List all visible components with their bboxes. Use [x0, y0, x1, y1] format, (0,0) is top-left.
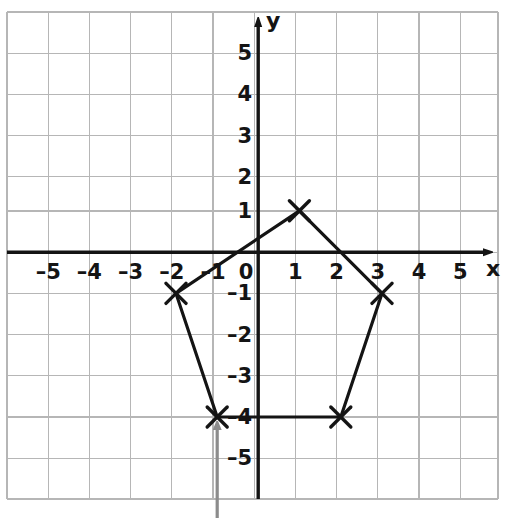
y-tick-label-2: 2: [237, 166, 252, 187]
y-tick-label--5: –5: [227, 448, 252, 469]
grid-lines: [7, 12, 498, 499]
pentagon-polygon: [176, 211, 382, 417]
y-tick-label-3: 3: [237, 125, 252, 146]
x-axis-label: x: [486, 258, 500, 280]
pentagon-outline: [176, 211, 382, 417]
x-tick-label--3: –3: [118, 262, 143, 283]
y-tick-label--3: –3: [227, 365, 252, 386]
y-tick-label--1: –1: [227, 283, 252, 304]
x-tick-label--4: –4: [77, 262, 102, 283]
x-tick-label-5: 5: [453, 262, 468, 283]
y-axis-label: y: [266, 10, 280, 32]
y-tick-label-4: 4: [237, 84, 252, 105]
x-tick-label-3: 3: [370, 262, 385, 283]
x-tick-label--2: –2: [159, 262, 184, 283]
x-tick-label-1: 1: [288, 262, 303, 283]
y-tick-label--2: –2: [227, 324, 252, 345]
coordinate-grid-figure: –5 –4 –3 –2 –1 0 1 2 3 4 5 5 4 3 2 1 –1 …: [0, 0, 505, 518]
x-tick-label--1: –1: [200, 262, 225, 283]
y-tick-label--4: –4: [227, 407, 252, 428]
vertex-markers: [166, 201, 392, 427]
x-tick-label-2: 2: [329, 262, 344, 283]
y-tick-label-5: 5: [237, 43, 252, 64]
x-tick-label--5: –5: [36, 262, 61, 283]
x-tick-label-0: 0: [239, 262, 254, 283]
x-tick-label-4: 4: [412, 262, 427, 283]
plot-canvas: [0, 0, 505, 518]
y-tick-label-1: 1: [237, 201, 252, 222]
